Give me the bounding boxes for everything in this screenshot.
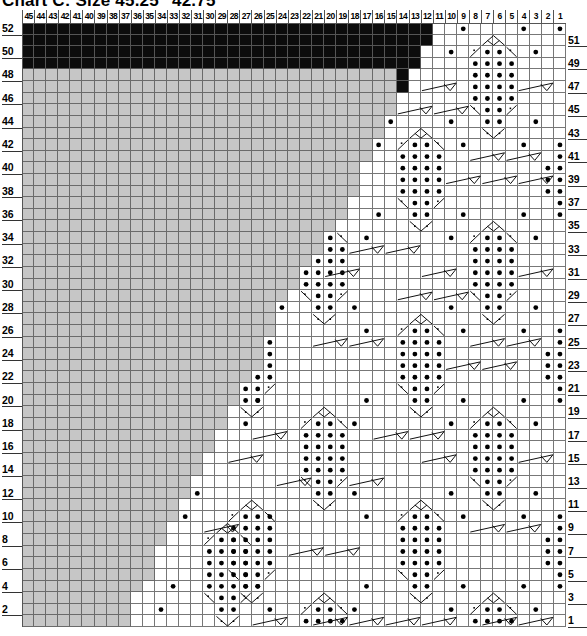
stitch-cell bbox=[373, 395, 385, 407]
stitch-cell bbox=[445, 279, 457, 291]
stitch-cell bbox=[191, 592, 203, 604]
no-stitch-cell bbox=[58, 313, 70, 325]
stitch-cell bbox=[469, 430, 481, 442]
stitch-cell bbox=[409, 197, 421, 209]
no-stitch-cell bbox=[324, 104, 336, 116]
no-stitch-cell bbox=[228, 279, 240, 291]
stitch-cell bbox=[276, 592, 288, 604]
no-stitch-cell bbox=[119, 128, 131, 140]
stitch-cell bbox=[373, 546, 385, 558]
no-stitch-cell bbox=[240, 232, 252, 244]
no-stitch-cell bbox=[143, 290, 155, 302]
no-stitch-cell bbox=[82, 290, 94, 302]
no-stitch-cell bbox=[82, 453, 94, 465]
stitch-cell bbox=[469, 267, 481, 279]
no-stitch-cell bbox=[46, 348, 58, 360]
stitch-cell bbox=[336, 325, 348, 337]
stitch-cell bbox=[542, 128, 554, 140]
no-stitch-cell bbox=[336, 116, 348, 128]
stitch-cell bbox=[554, 522, 566, 534]
no-stitch-cell bbox=[203, 174, 215, 186]
no-stitch-cell bbox=[107, 360, 119, 372]
bind-off-cell bbox=[385, 46, 397, 58]
stitch-cell bbox=[179, 511, 191, 523]
stitch-cell bbox=[445, 93, 457, 105]
no-stitch-cell bbox=[167, 290, 179, 302]
stitch-cell bbox=[385, 209, 397, 221]
no-stitch-cell bbox=[155, 116, 167, 128]
stitch-cell bbox=[348, 395, 360, 407]
no-stitch-cell bbox=[179, 116, 191, 128]
no-stitch-cell bbox=[119, 534, 131, 546]
stitch-cell bbox=[336, 244, 348, 256]
stitch-cell bbox=[348, 302, 360, 314]
stitch-cell bbox=[457, 23, 469, 35]
stitch-cell bbox=[481, 313, 493, 325]
bind-off-cell bbox=[360, 58, 372, 70]
no-stitch-cell bbox=[179, 267, 191, 279]
no-stitch-cell bbox=[155, 232, 167, 244]
no-stitch-cell bbox=[348, 69, 360, 81]
stitch-cell bbox=[373, 290, 385, 302]
stitch-cell bbox=[409, 313, 421, 325]
no-stitch-cell bbox=[95, 151, 107, 163]
no-stitch-cell bbox=[22, 279, 34, 291]
no-stitch-cell bbox=[203, 395, 215, 407]
row-number-left: 42 bbox=[2, 139, 22, 152]
bind-off-cell bbox=[131, 46, 143, 58]
stitch-cell bbox=[397, 128, 409, 140]
stitch-cell bbox=[433, 348, 445, 360]
stitch-cell bbox=[252, 488, 264, 500]
stitch-cell bbox=[469, 139, 481, 151]
stitch-cell bbox=[385, 395, 397, 407]
stitch-cell bbox=[554, 464, 566, 476]
bind-off-cell bbox=[22, 23, 34, 35]
no-stitch-cell bbox=[82, 430, 94, 442]
stitch-cell bbox=[373, 360, 385, 372]
stitch-cell bbox=[457, 441, 469, 453]
stitch-cell bbox=[312, 302, 324, 314]
no-stitch-cell bbox=[336, 186, 348, 198]
no-stitch-cell bbox=[58, 162, 70, 174]
column-number: 19 bbox=[336, 10, 348, 23]
stitch-cell bbox=[264, 546, 276, 558]
stitch-cell bbox=[518, 499, 530, 511]
no-stitch-cell bbox=[276, 209, 288, 221]
no-stitch-cell bbox=[58, 244, 70, 256]
no-stitch-cell bbox=[312, 93, 324, 105]
stitch-cell bbox=[530, 197, 542, 209]
stitch-cell bbox=[481, 267, 493, 279]
stitch-cell bbox=[348, 534, 360, 546]
no-stitch-cell bbox=[215, 197, 227, 209]
no-stitch-cell bbox=[143, 371, 155, 383]
no-stitch-cell bbox=[58, 267, 70, 279]
stitch-cell bbox=[240, 592, 252, 604]
no-stitch-cell bbox=[131, 302, 143, 314]
no-stitch-cell bbox=[252, 116, 264, 128]
stitch-cell bbox=[191, 546, 203, 558]
no-stitch-cell bbox=[203, 430, 215, 442]
stitch-cell bbox=[518, 290, 530, 302]
column-number: 38 bbox=[107, 10, 119, 23]
no-stitch-cell bbox=[240, 93, 252, 105]
stitch-cell bbox=[215, 453, 227, 465]
no-stitch-cell bbox=[240, 174, 252, 186]
row-number-right: 25 bbox=[568, 337, 587, 350]
stitch-cell bbox=[252, 499, 264, 511]
column-number: 2 bbox=[541, 10, 553, 23]
row-number-left: 36 bbox=[2, 209, 22, 222]
stitch-cell bbox=[542, 139, 554, 151]
stitch-cell bbox=[530, 267, 542, 279]
no-stitch-cell bbox=[46, 174, 58, 186]
stitch-cell bbox=[276, 488, 288, 500]
stitch-cell bbox=[409, 186, 421, 198]
no-stitch-cell bbox=[348, 174, 360, 186]
no-stitch-cell bbox=[119, 151, 131, 163]
stitch-cell bbox=[300, 418, 312, 430]
stitch-cell bbox=[445, 406, 457, 418]
stitch-cell bbox=[493, 557, 505, 569]
no-stitch-cell bbox=[264, 267, 276, 279]
no-stitch-cell bbox=[34, 534, 46, 546]
stitch-cell bbox=[385, 220, 397, 232]
no-stitch-cell bbox=[22, 522, 34, 534]
